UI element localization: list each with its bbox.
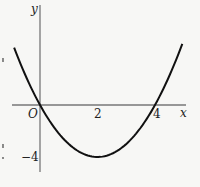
margin-mark [2,58,4,60]
origin-label: O [28,107,38,121]
x-axis-label: x [180,106,187,120]
margin-mark [2,146,4,148]
y-axis-label: y [30,2,38,16]
margin-mark [2,144,4,146]
parabola-chart: y x O 2 4 −4 [0,0,200,187]
margin-mark [2,60,4,62]
y-tick-label-neg4: −4 [21,150,39,164]
x-tick-label-4: 4 [153,107,161,121]
margin-mark [2,157,4,159]
x-tick-label-2: 2 [94,107,102,121]
